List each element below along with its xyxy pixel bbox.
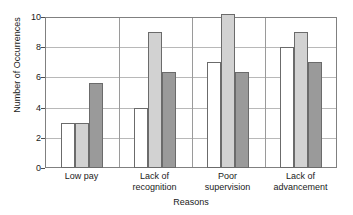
x-category-label: Poorsupervision (191, 171, 264, 193)
bars-group (45, 0, 337, 169)
bar-chart-figure: 0246810 Number of Occurrences Low payLac… (0, 0, 353, 215)
x-axis-category-labels: Low payLack ofrecognitionPoorsupervision… (45, 171, 337, 199)
bar (89, 83, 103, 168)
y-tick-label: 10 (25, 13, 41, 22)
x-category-label-line: supervision (191, 182, 264, 193)
bar (162, 72, 176, 168)
x-category-label-line: Poor (191, 171, 264, 182)
x-category-label-line: advancement (264, 182, 337, 193)
bar (207, 62, 221, 168)
x-category-label: Low pay (45, 171, 118, 182)
x-category-label: Lack ofrecognition (118, 171, 191, 193)
x-category-label-line: recognition (118, 182, 191, 193)
y-axis-title: Number of Occurrences (12, 0, 22, 135)
y-tick-label: 6 (25, 73, 41, 82)
bar (134, 108, 148, 168)
x-category-label-line: Lack of (118, 171, 191, 182)
y-tick-label: 0 (25, 164, 41, 173)
x-category-label: Lack ofadvancement (264, 171, 337, 193)
x-category-label-line: Low pay (45, 171, 118, 182)
bar (308, 62, 322, 168)
x-category-label-line: Lack of (264, 171, 337, 182)
bar (75, 123, 89, 168)
bar (221, 14, 235, 168)
x-axis-title: Reasons (45, 197, 337, 207)
y-tick-label: 2 (25, 133, 41, 142)
bar (294, 32, 308, 168)
bar (235, 72, 249, 168)
bar (61, 123, 75, 168)
bar (280, 47, 294, 168)
y-tick-label: 4 (25, 103, 41, 112)
y-axis-tick-labels: 0246810 (22, 17, 41, 168)
bar (148, 32, 162, 168)
y-tick-label: 8 (25, 43, 41, 52)
